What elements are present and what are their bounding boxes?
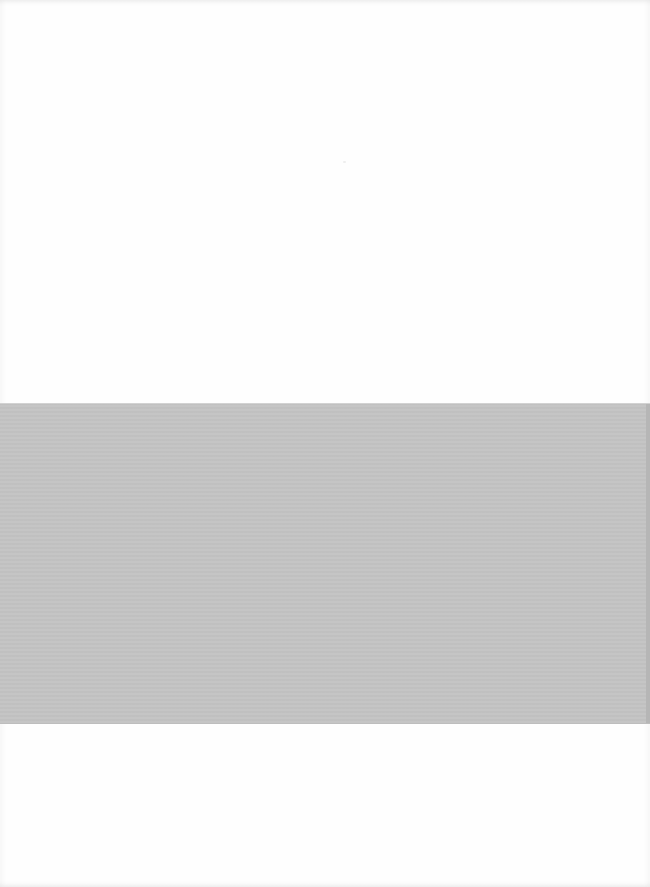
gray-band bbox=[0, 403, 650, 724]
band-texture bbox=[0, 404, 650, 723]
band-right-edge bbox=[646, 404, 650, 723]
scanned-page bbox=[0, 0, 650, 887]
top-edge-bleed bbox=[0, 0, 650, 6]
scan-speck bbox=[343, 161, 346, 163]
bottom-edge-bleed bbox=[0, 881, 650, 887]
